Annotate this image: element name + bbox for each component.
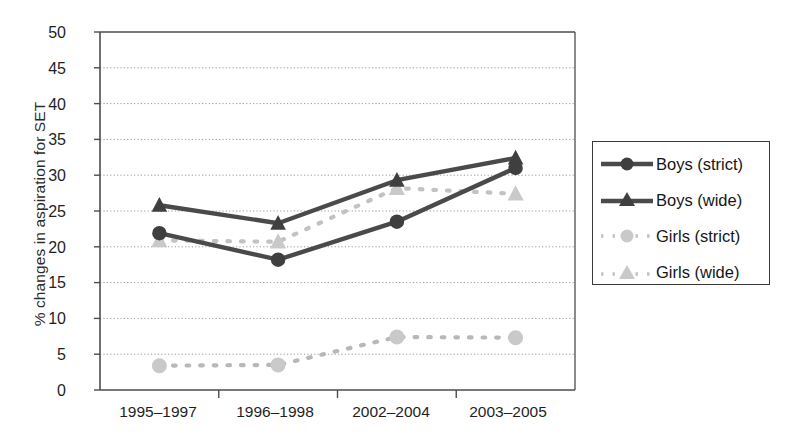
legend: Boys (strict) Boys (wide) Girls (strict): [592, 141, 770, 285]
legend-label-boys-wide: Boys (wide): [656, 191, 742, 210]
data-point-marker: [152, 358, 167, 373]
data-point-marker: [390, 215, 404, 229]
legend-label-girls-strict: Girls (strict): [656, 227, 740, 246]
data-point-marker: [271, 357, 286, 372]
legend-entry-boys-strict: Boys (strict): [593, 146, 769, 182]
axis-lines: [94, 32, 575, 398]
data-point-marker: [271, 253, 285, 267]
legend-label-boys-strict: Boys (strict): [656, 155, 743, 174]
series-layer: [151, 150, 523, 373]
series-girls-strict: [152, 330, 523, 374]
data-point-marker: [152, 226, 166, 240]
legend-swatch-boys-strict: [600, 152, 654, 176]
legend-label-girls-wide: Girls (wide): [656, 263, 739, 282]
legend-swatch-girls-strict: [600, 224, 654, 248]
legend-entry-girls-strict: Girls (strict): [593, 218, 769, 254]
legend-entry-girls-wide: Girls (wide): [593, 254, 769, 290]
legend-swatch-boys-wide: [600, 188, 654, 212]
legend-entry-boys-wide: Boys (wide): [593, 182, 769, 218]
legend-swatch-girls-wide: [600, 260, 654, 284]
gridlines: [100, 68, 575, 354]
chart-figure: % changes in aspiration for SET 50 45 40…: [0, 0, 798, 448]
data-point-marker: [508, 330, 523, 345]
data-point-marker: [508, 185, 524, 200]
data-point-marker: [389, 330, 404, 345]
